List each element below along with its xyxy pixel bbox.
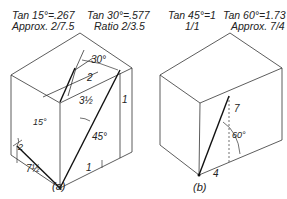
label-angle-30: 30°	[91, 54, 106, 65]
label-seven-half: 7½	[26, 163, 41, 174]
label-angle-15: 15°	[33, 117, 47, 127]
label-angle-60: 60°	[232, 130, 246, 140]
label-three-half: 3½	[79, 95, 94, 106]
diagram-canvas: 30° 2 3½ 1 15° 2 7½ 45° 1 (a) 7 60° 4 (b…	[0, 0, 287, 199]
figure-a-dimension-marks	[13, 60, 118, 168]
figure-b-caption: (b)	[193, 181, 207, 193]
label-angle-45: 45°	[92, 131, 107, 142]
label-seven: 7	[234, 103, 240, 114]
label-one-bottom: 1	[86, 162, 92, 173]
figure-b-vertex-dot	[198, 174, 201, 177]
label-two-top: 2	[86, 72, 93, 83]
label-four: 4	[213, 168, 219, 179]
figure-b-angle-line	[199, 96, 229, 175]
label-two-left: 2	[17, 142, 23, 152]
label-one-right: 1	[122, 94, 128, 105]
figure-a-caption: (a)	[52, 180, 66, 192]
figure-b-box	[160, 33, 282, 175]
